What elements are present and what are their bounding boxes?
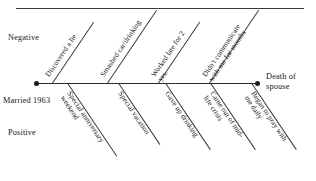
cause-label-positive-3: Gave up drinking <box>163 90 205 146</box>
cause-label-negative-4: Didn't communicate with me for months <box>201 23 249 84</box>
spine-start-label: Married 1963 <box>3 96 50 105</box>
spine-end-label: Death of spouse <box>266 72 314 93</box>
cause-label-positive-1: Special anniversary weekend <box>58 90 106 151</box>
cause-label-negative-1: Discovered a lie <box>44 33 79 79</box>
spine-start-dot <box>34 81 39 86</box>
axis-label-negative: Negative <box>8 33 39 42</box>
cause-label-negative-2: Smashed car/drinking <box>99 19 143 79</box>
spine-end-dot <box>255 81 260 86</box>
cause-label-negative-3: Worked late for 2 yrs. <box>150 23 198 84</box>
axis-label-positive: Positive <box>8 128 36 137</box>
top-divider-rule <box>16 8 304 9</box>
fishbone-diagram: Negative Positive Married 1963 Death of … <box>0 0 316 181</box>
cause-label-positive-2: Special vacation <box>116 90 158 146</box>
diagram-spine <box>36 83 258 84</box>
